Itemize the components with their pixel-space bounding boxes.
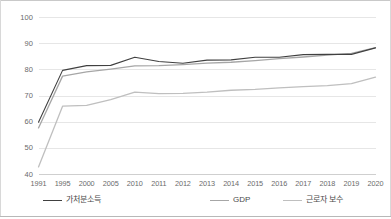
y-tick-label: 90 [11,39,33,48]
legend-item-2[interactable]: 근로자 보수 [283,193,343,207]
x-tick-label: 2016 [266,179,292,188]
y-tick-label: 70 [11,91,33,100]
x-tick-label: 2020 [363,179,389,188]
y-tick-label: 100 [11,13,33,22]
series-lines-group [39,48,376,167]
x-tick-label: 2005 [98,179,124,188]
legend-swatch-icon [210,200,229,201]
x-tick-label: 2010 [122,179,148,188]
legend-swatch-icon [283,200,302,201]
x-tick-label: 2018 [314,179,340,188]
frame-bottom-border [0,216,391,217]
chart-legend: 가처분소득GDP근로자 보수 [0,193,391,211]
x-tick-label: 2017 [290,179,316,188]
x-tick-label: 2012 [170,179,196,188]
x-tick-label: 2015 [242,179,268,188]
legend-swatch-icon [43,200,62,201]
legend-item-1[interactable]: GDP [210,193,250,207]
gridlines-group [39,18,376,175]
x-tick-label: 2000 [74,179,100,188]
legend-label: 근로자 보수 [306,193,343,207]
x-tick-label: 2011 [146,179,172,188]
y-tick-label: 80 [11,65,33,74]
y-tick-label: 60 [11,117,33,126]
y-tick-label: 40 [11,170,33,179]
x-tick-label: 2013 [194,179,220,188]
legend-label: 가처분소득 [66,193,101,207]
line-chart-svg [0,0,391,191]
x-tick-label: 2014 [218,179,244,188]
legend-label: GDP [233,193,250,207]
chart-screenshot: 100908070605040 199119952000200520102011… [0,0,391,219]
y-tick-label: 50 [11,143,33,152]
x-tick-label: 1995 [50,179,76,188]
x-tick-label: 1991 [26,179,52,188]
chart-plot-area: 100908070605040 199119952000200520102011… [0,0,391,191]
x-tick-label: 2019 [338,179,364,188]
legend-item-0[interactable]: 가처분소득 [43,193,101,207]
